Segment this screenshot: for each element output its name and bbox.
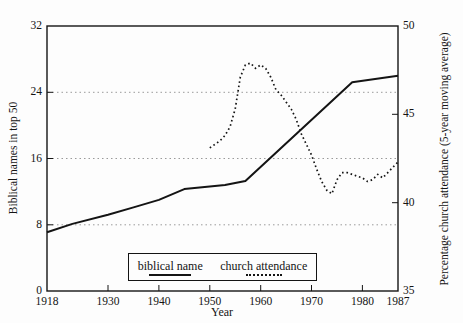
x-tick-label: 1940 bbox=[147, 296, 170, 308]
series-line-dotted bbox=[210, 63, 398, 194]
x-tick-label: 1980 bbox=[351, 296, 374, 308]
legend-item-church-attendance: church attendance bbox=[220, 259, 307, 276]
x-tick-label: 1987 bbox=[387, 296, 410, 308]
legend-item-biblical-name: biblical name bbox=[138, 259, 203, 276]
y-tick-label-left: 16 bbox=[18, 152, 42, 164]
solid-line-sample-icon bbox=[149, 274, 191, 276]
figure: Biblical names in top 50 Percentage chur… bbox=[0, 0, 463, 323]
y-tick-label-left: 24 bbox=[18, 86, 42, 98]
y-tick-label-left: 8 bbox=[18, 218, 42, 230]
legend-label-biblical-name: biblical name bbox=[138, 260, 203, 272]
legend-label-church-attendance: church attendance bbox=[220, 260, 307, 272]
y-axis-title-right: Percentage church attendance (5-year mov… bbox=[439, 32, 451, 285]
x-tick-label: 1960 bbox=[249, 296, 272, 308]
x-tick-label: 1950 bbox=[198, 296, 221, 308]
y-tick-label-left: 32 bbox=[18, 20, 42, 32]
series-line-solid bbox=[47, 76, 398, 233]
y-tick-label-right: 35 bbox=[403, 285, 415, 297]
x-tick-label: 1918 bbox=[36, 296, 59, 308]
x-axis-title: Year bbox=[211, 306, 233, 318]
y-tick-label-right: 45 bbox=[403, 108, 415, 120]
dotted-line-sample-icon bbox=[246, 274, 282, 276]
x-tick-label: 1970 bbox=[300, 296, 323, 308]
x-tick-label: 1930 bbox=[97, 296, 120, 308]
y-tick-label-left: 0 bbox=[18, 285, 42, 297]
y-tick-label-right: 50 bbox=[403, 20, 415, 32]
legend: biblical name church attendance bbox=[128, 253, 317, 281]
y-tick-label-right: 40 bbox=[403, 196, 415, 208]
